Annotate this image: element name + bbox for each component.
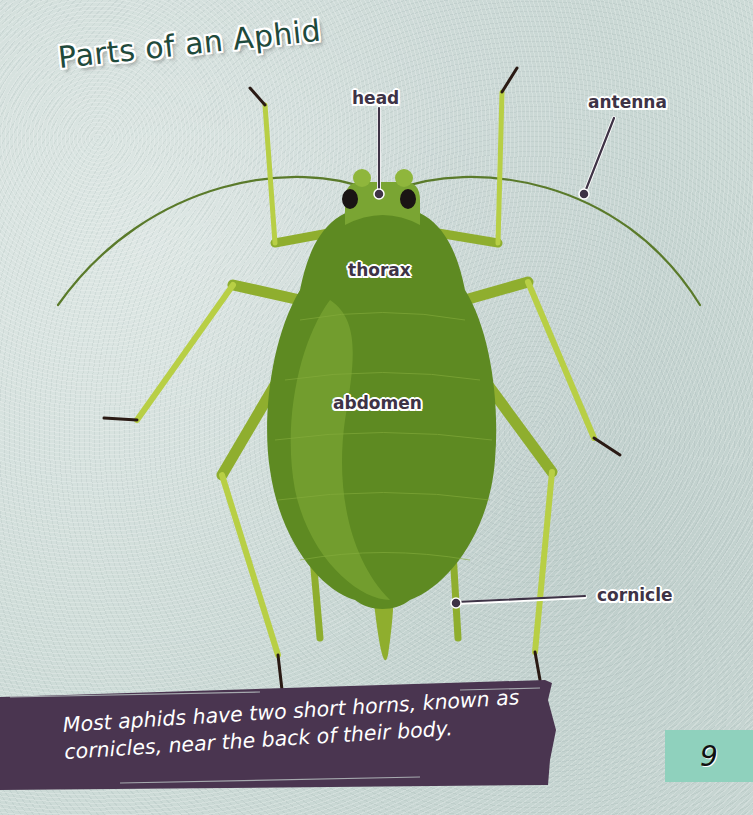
- book-page: Parts of an Aphid head antenna thorax ab…: [0, 0, 753, 815]
- label-abdomen: abdomen: [333, 393, 422, 413]
- label-cornicle: cornicle: [597, 585, 673, 605]
- page-number-tab: 9: [665, 730, 753, 782]
- label-antenna: antenna: [588, 92, 667, 112]
- label-thorax: thorax: [348, 260, 411, 280]
- label-head: head: [352, 88, 399, 108]
- page-number: 9: [700, 740, 718, 773]
